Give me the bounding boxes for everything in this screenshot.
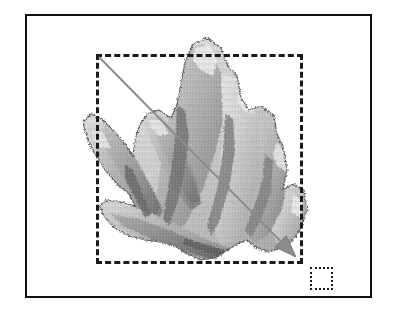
screenshot-canvas: 3D branching coral surface render with d…	[0, 0, 394, 316]
dotted-resize-handle[interactable]	[310, 267, 333, 290]
dashed-bounding-box[interactable]	[96, 54, 303, 264]
